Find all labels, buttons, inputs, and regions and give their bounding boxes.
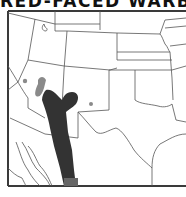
primary-range [42, 90, 78, 186]
southern-range-tip [64, 178, 78, 186]
isolated-record-west [23, 79, 27, 83]
range-areas [23, 77, 93, 186]
map-frame [8, 11, 186, 186]
range-map [0, 0, 186, 197]
state-borders [8, 11, 186, 186]
isolated-record-east [89, 102, 93, 106]
